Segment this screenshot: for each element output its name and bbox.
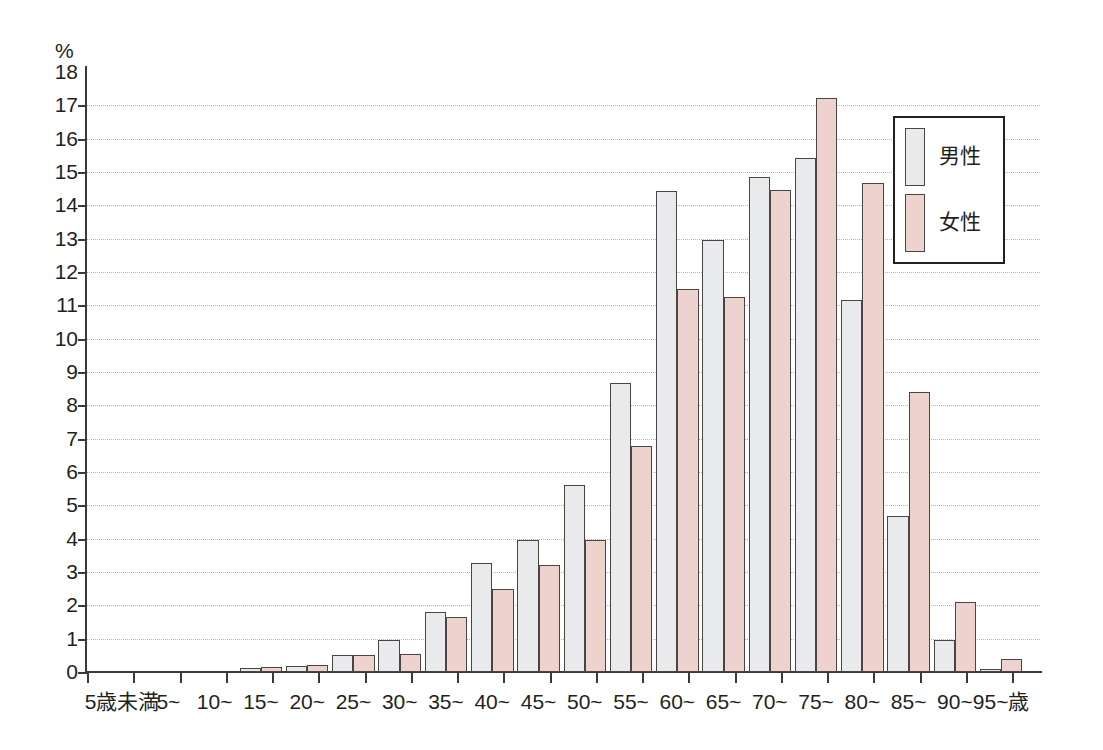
x-axis-tick-label: 10~ (197, 690, 233, 714)
y-axis-tick (78, 572, 87, 574)
y-axis-tick-label: 6 (44, 461, 78, 482)
bar-female (353, 655, 374, 672)
x-axis-tick (365, 672, 367, 683)
y-axis-tick-label: 8 (44, 394, 78, 415)
bar-female (1001, 659, 1022, 672)
x-axis-tick (642, 672, 644, 683)
bar-male (471, 563, 492, 672)
bar-female (446, 617, 467, 672)
y-axis-tick (78, 239, 87, 241)
bar-chart: % 0123456789101112131415161718 5歳未満5~10~… (0, 0, 1103, 750)
legend-swatch-female-icon (905, 194, 925, 252)
y-axis-tick-label: 0 (44, 661, 78, 682)
x-axis-tick (735, 672, 737, 683)
x-axis-tick-label: 85~ (891, 690, 927, 714)
y-axis-tick (78, 539, 87, 541)
y-axis-tick (78, 672, 87, 674)
x-axis-tick-label: 45~ (521, 690, 557, 714)
bar-male (517, 540, 538, 672)
y-axis-tick-label: 9 (44, 361, 78, 382)
bar-female (261, 667, 282, 672)
bar-female (862, 183, 883, 672)
x-axis-tick-label: 70~ (752, 690, 788, 714)
bar-male (610, 383, 631, 672)
y-axis-tick-label: 10 (44, 328, 78, 349)
x-axis-tick-label: 25~ (336, 690, 372, 714)
x-axis-tick-label: 80~ (845, 690, 881, 714)
gridline (87, 339, 1040, 340)
x-axis-tick (1012, 672, 1014, 683)
y-axis-tick-label: 11 (44, 294, 78, 315)
y-axis-tick-label: 12 (44, 261, 78, 282)
legend-label-male: 男性 (939, 144, 981, 168)
bar-male (240, 668, 261, 672)
y-axis-tick (78, 172, 87, 174)
bar-male (564, 485, 585, 672)
x-axis-tick (503, 672, 505, 683)
y-axis-tick-label: 5 (44, 494, 78, 515)
x-axis-tick (133, 672, 135, 683)
bar-male (702, 240, 723, 672)
x-axis-tick-label: 75~ (798, 690, 834, 714)
x-axis-tick (411, 672, 413, 683)
x-axis-tick-label: 90~ (937, 690, 973, 714)
x-axis-tick-label: 95~歳 (973, 690, 1030, 714)
x-axis-tick (781, 672, 783, 683)
y-axis-tick (78, 339, 87, 341)
y-axis-tick-label: 17 (44, 94, 78, 115)
gridline (87, 472, 1040, 473)
bar-male (425, 612, 446, 672)
bar-female (816, 98, 837, 672)
gridline (87, 405, 1040, 406)
x-axis-tick (688, 672, 690, 683)
x-axis-tick-label: 35~ (428, 690, 464, 714)
y-axis-tick-labels: 0123456789101112131415161718 (38, 72, 78, 672)
bar-female (770, 190, 791, 672)
bar-female (585, 540, 606, 672)
x-axis-tick-label: 50~ (567, 690, 603, 714)
x-axis-tick-label: 40~ (474, 690, 510, 714)
x-axis-tick (87, 672, 89, 683)
bar-male (286, 666, 307, 672)
y-axis-tick (78, 272, 87, 274)
bar-male (332, 655, 353, 672)
bar-female (492, 589, 513, 672)
bar-male (841, 300, 862, 672)
x-axis-tick (226, 672, 228, 683)
bar-female (400, 654, 421, 672)
bar-male (795, 158, 816, 672)
x-axis-tick-labels: 5歳未満5~10~15~20~25~30~35~40~45~50~55~60~6… (0, 690, 1103, 724)
y-axis-tick (78, 405, 87, 407)
x-axis-tick-label: 20~ (289, 690, 325, 714)
y-axis-tick-label: 1 (44, 628, 78, 649)
legend-item-female: 女性 (905, 194, 999, 252)
y-axis-tick-label: 7 (44, 428, 78, 449)
gridline (87, 372, 1040, 373)
x-axis-tick (272, 672, 274, 683)
x-axis-tick (550, 672, 552, 683)
bar-female (724, 297, 745, 672)
gridline (87, 439, 1040, 440)
y-axis-tick (78, 472, 87, 474)
x-axis-tick-label: 60~ (659, 690, 695, 714)
y-axis-tick (78, 372, 87, 374)
y-axis-tick-label: 13 (44, 228, 78, 249)
x-axis-tick (873, 672, 875, 683)
x-axis-tick (180, 672, 182, 683)
bar-female (539, 565, 560, 672)
gridline (87, 272, 1040, 273)
bar-male (656, 191, 677, 672)
bar-female (909, 392, 930, 672)
y-axis-tick-label: 15 (44, 161, 78, 182)
bar-female (677, 289, 698, 672)
bar-female (631, 446, 652, 672)
x-axis-tick-label: 30~ (382, 690, 418, 714)
x-axis-tick-label: 5~ (156, 690, 180, 714)
legend-item-male: 男性 (905, 128, 999, 186)
bar-male (887, 516, 908, 672)
legend-label-female: 女性 (939, 210, 981, 234)
x-axis-tick (318, 672, 320, 683)
y-axis-tick (78, 639, 87, 641)
bar-male (749, 177, 770, 672)
x-axis-tick (827, 672, 829, 683)
